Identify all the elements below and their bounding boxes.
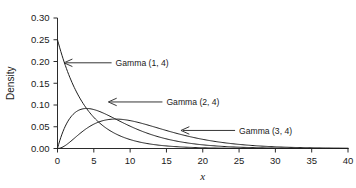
y-tick-label: 0.10 <box>31 99 50 110</box>
density-curve-3 <box>58 119 349 148</box>
chart-canvas: 0.000.050.100.150.200.250.30 05101520253… <box>0 0 356 188</box>
annotation-1: Gamma (1, 4) <box>64 58 169 68</box>
density-curves <box>58 40 349 149</box>
y-axis-tick-marks <box>54 18 58 149</box>
y-tick-label: 0.00 <box>31 143 50 154</box>
x-tick-label: 0 <box>55 155 60 166</box>
y-tick-label: 0.20 <box>31 56 50 67</box>
x-tick-label: 25 <box>234 155 245 166</box>
x-tick-label: 15 <box>161 155 172 166</box>
gamma-density-chart: 0.000.050.100.150.200.250.30 05101520253… <box>0 0 356 188</box>
density-curve-2 <box>58 108 349 148</box>
annotation-label: Gamma (2, 4) <box>166 97 219 107</box>
x-axis-tick-labels: 0510152025303540 <box>55 155 353 166</box>
annotation-2: Gamma (2, 4) <box>108 97 219 107</box>
x-tick-label: 20 <box>197 155 208 166</box>
x-tick-label: 30 <box>270 155 281 166</box>
curve-annotations: Gamma (1, 4)Gamma (2, 4)Gamma (3, 4) <box>64 58 292 136</box>
x-tick-label: 35 <box>306 155 317 166</box>
annotation-3: Gamma (3, 4) <box>181 126 292 136</box>
y-tick-label: 0.05 <box>31 121 50 132</box>
x-tick-label: 10 <box>125 155 136 166</box>
x-axis-title: x <box>199 170 205 182</box>
y-axis-tick-labels: 0.000.050.100.150.200.250.30 <box>31 12 50 154</box>
annotation-label: Gamma (1, 4) <box>116 58 169 68</box>
density-curve-1 <box>58 40 349 149</box>
y-tick-label: 0.15 <box>31 78 50 89</box>
y-tick-label: 0.30 <box>31 12 50 23</box>
y-tick-label: 0.25 <box>31 34 50 45</box>
x-tick-label: 5 <box>91 155 96 166</box>
annotation-label: Gamma (3, 4) <box>239 126 292 136</box>
x-axis-tick-marks <box>58 149 349 153</box>
x-tick-label: 40 <box>343 155 354 166</box>
y-axis-title: Density <box>5 67 16 100</box>
